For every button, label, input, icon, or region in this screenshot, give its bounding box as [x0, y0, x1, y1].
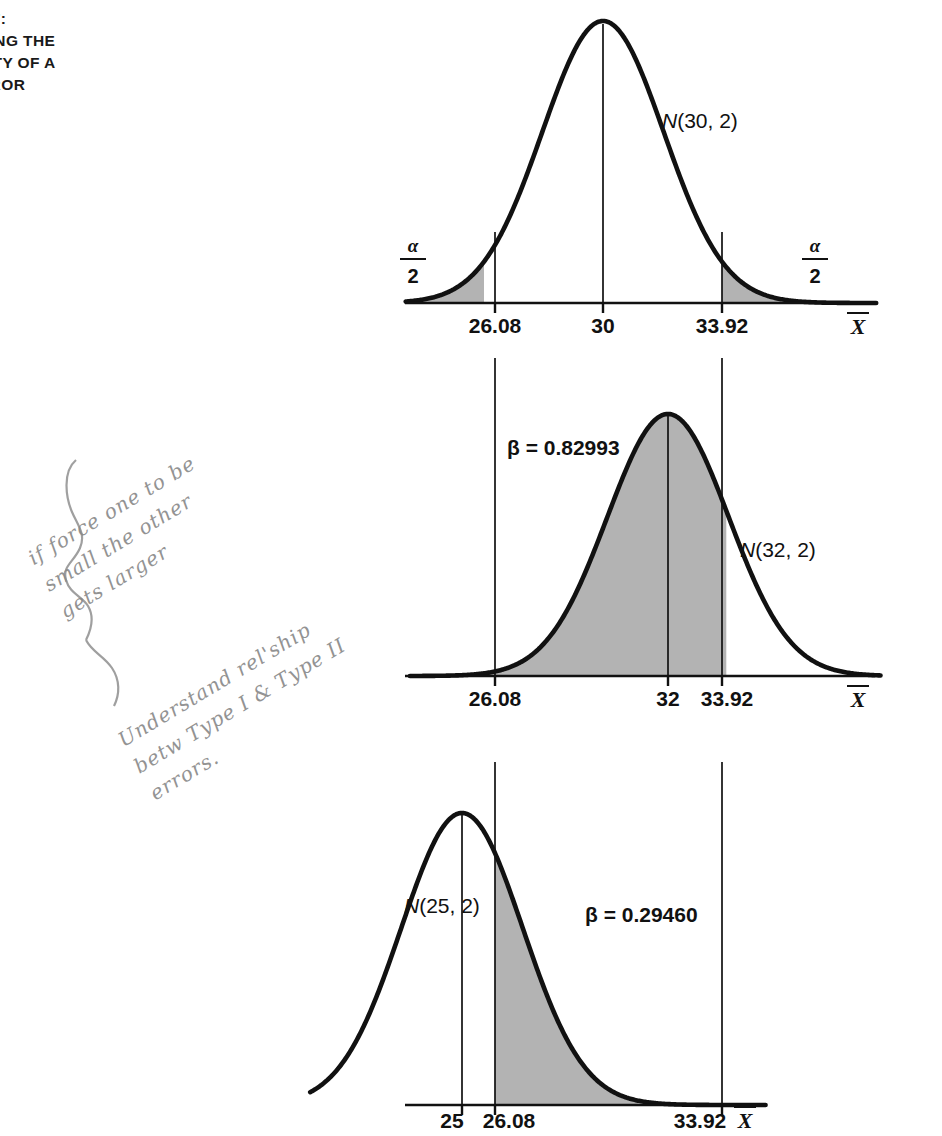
- curve-label-bottom: N(25, 2): [404, 894, 480, 917]
- alpha-symbol-left: α: [408, 235, 419, 256]
- panel-bottom: 25 26.08 33.92 N(25, 2) β = 0.29460 X: [310, 762, 765, 1133]
- tick-label-top-3: 33.92: [696, 314, 749, 337]
- tick-label-bottom-3: 33.92: [674, 1109, 727, 1132]
- alpha-denominator-left: 2: [407, 265, 418, 287]
- beta-label-middle: β = 0.82993: [507, 436, 620, 459]
- curve-label-top: N(30, 2): [662, 109, 738, 132]
- beta-shaded-region-bottom: [495, 853, 733, 1105]
- x-axis-label-bottom: X: [734, 1107, 756, 1133]
- alpha-over-2-left: α 2: [400, 235, 426, 287]
- alpha-symbol-right: α: [810, 235, 821, 256]
- panel-middle: 26.08 32 33.92 N(32, 2) β = 0.82993 X: [405, 358, 881, 712]
- figure-root: 3.7: NING THE LITY OF A RROR 26.08 30 33…: [0, 0, 942, 1136]
- alpha-over-2-right: α 2: [802, 235, 828, 287]
- x-axis-label-middle: X: [847, 686, 869, 712]
- xbar-letter-middle: X: [850, 687, 867, 712]
- tick-label-middle-1: 26.08: [469, 687, 522, 710]
- xbar-letter-top: X: [850, 314, 867, 339]
- tick-label-bottom-1: 25: [440, 1109, 464, 1132]
- tick-label-top-2: 30: [591, 314, 614, 337]
- panel-top: 26.08 30 33.92 N(30, 2) α 2 α 2 X: [400, 21, 876, 339]
- x-axis-label-top: X: [847, 313, 869, 339]
- alpha-denominator-right: 2: [809, 265, 820, 287]
- tick-label-middle-2: 32: [656, 687, 679, 710]
- tick-label-middle-3: 33.92: [701, 687, 754, 710]
- brace-stroke-2: [86, 640, 118, 706]
- xbar-letter-bottom: X: [737, 1108, 754, 1133]
- curve-label-middle: N(32, 2): [740, 538, 816, 561]
- beta-label-bottom: β = 0.29460: [585, 903, 698, 926]
- normal-curve-top: [406, 21, 877, 303]
- tick-label-top-1: 26.08: [469, 314, 522, 337]
- tick-label-bottom-2: 26.08: [483, 1109, 536, 1132]
